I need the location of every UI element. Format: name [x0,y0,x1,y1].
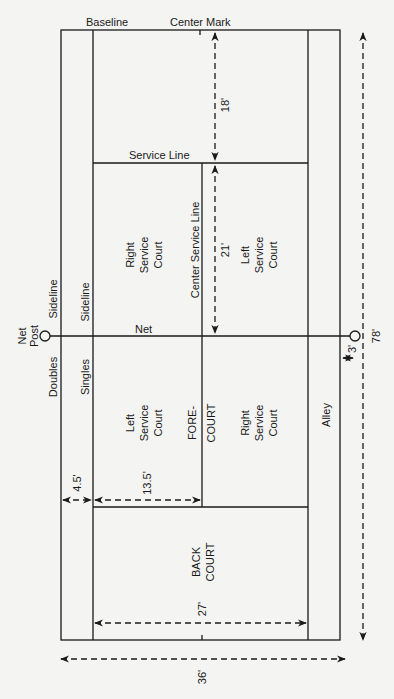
backcourt-line1: BACK [190,546,202,577]
label-net: Net [135,323,152,335]
net-post-right [350,331,360,341]
net-post-left [40,331,50,341]
label-net-post-1: Net [16,327,28,344]
label-sideline-singles: Sideline [79,282,91,321]
dim-21ft: 21' [219,243,231,257]
label-sideline-doubles: Sideline [47,279,59,318]
label-baseline: Baseline [86,16,128,28]
label-center-mark: Center Mark [170,16,231,28]
bls-line3: Court [152,410,164,437]
dim-27ft: 27' [196,602,208,616]
label-net-post-2: Post [28,325,40,347]
dim-78ft: 78' [370,329,382,343]
tennis-court-diagram: Baseline Center Mark Service Line Net 18… [0,0,394,699]
tls-line1: Left [239,246,251,264]
brs-line2: Service [253,405,265,442]
tls-line3: Court [267,242,279,269]
brs-line3: Court [267,410,279,437]
dim-36ft: 36' [196,670,208,684]
bls-line2: Service [138,405,150,442]
forecourt-line1: FORE- [186,406,198,441]
backcourt-line2: COURT [204,542,216,581]
tls-line2: Service [253,237,265,274]
label-doubles: Doubles [47,356,59,397]
trs-line2: Service [138,237,150,274]
trs-line1: Right [124,242,136,268]
trs-line3: Court [152,242,164,269]
dim-18ft: 18' [219,98,231,112]
dim-4-5ft: 4.5' [71,474,83,491]
dim-3ft: 3' [346,345,358,353]
bls-line1: Left [124,414,136,432]
label-singles: Singles [79,358,91,395]
brs-line1: Right [239,410,251,436]
forecourt-line2: COURT [205,403,217,442]
label-service-line: Service Line [129,149,190,161]
label-alley: Alley [320,403,332,427]
dim-13-5ft: 13.5' [141,471,153,495]
label-center-service-line: Center Service Line [189,202,201,299]
